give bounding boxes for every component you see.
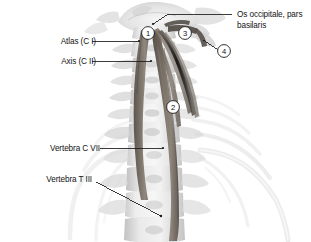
anatomical-figure: 1 2 3 4 Atlas (C I) Axis (C II) Vertebra…: [0, 0, 311, 242]
label-axis: Axis (C II): [0, 57, 96, 68]
marker-label-2: 2: [166, 102, 180, 113]
label-vertebra-cvii: Vertebra C VII: [0, 144, 100, 155]
label-vertebra-tiii: Vertebra T III: [0, 175, 92, 186]
ribs-right: [189, 95, 288, 240]
label-os-occipitale: Os occipitale, pars basilaris: [237, 10, 311, 31]
label-atlas: Atlas (C I): [0, 37, 96, 48]
marker-label-3: 3: [178, 28, 192, 39]
marker-label-4: 4: [217, 46, 231, 57]
marker-label-1: 1: [141, 28, 155, 39]
